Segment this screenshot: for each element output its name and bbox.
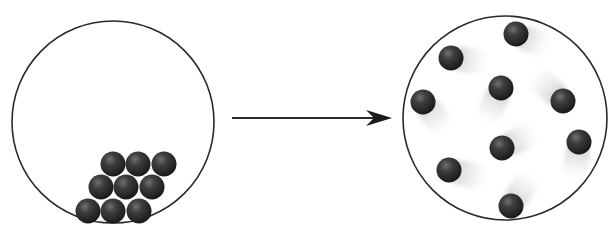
particle (567, 130, 592, 155)
transition-arrow (232, 110, 392, 126)
particle (437, 158, 462, 183)
particle (490, 136, 515, 161)
motion-trails-group (413, 23, 591, 213)
particle (551, 89, 576, 114)
particle (114, 175, 139, 200)
particle (127, 199, 152, 224)
particle (152, 152, 177, 177)
diagram-svg (0, 0, 615, 236)
left-container-outline (12, 21, 214, 223)
particle (101, 199, 126, 224)
left-container (12, 21, 214, 224)
particle (140, 175, 165, 200)
particle (126, 152, 151, 177)
particle (504, 22, 529, 47)
particle (76, 199, 101, 224)
right-container (403, 16, 607, 220)
particle (489, 76, 514, 101)
particle (89, 175, 114, 200)
diagram-canvas (0, 0, 615, 236)
particle (411, 90, 436, 115)
packed-particles-group (76, 152, 177, 224)
particle (499, 194, 524, 219)
particle (101, 152, 126, 177)
particle (439, 46, 464, 71)
